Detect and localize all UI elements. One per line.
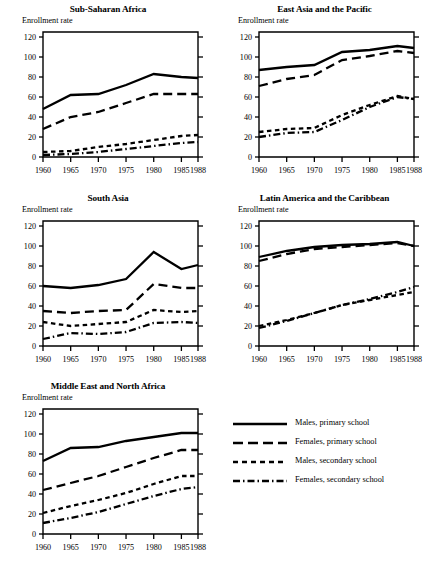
y-tick-label: 100 [24,430,36,439]
x-tick-label: 1980 [146,355,162,364]
data-series-line [43,94,198,129]
legend-item-females-primary: Females, primary school [232,435,377,447]
y-tick-label: 0 [32,342,36,351]
data-series-line [43,142,198,155]
y-tick-label: 80 [244,73,252,82]
x-tick-label: 1988 [406,166,422,175]
data-series-line [259,96,414,132]
y-tick-label: 20 [244,322,252,331]
x-tick-label: 1965 [63,355,79,364]
y-tick-label: 60 [28,470,36,479]
x-tick-label: 1980 [146,543,162,552]
panel-sub-saharan-africa: Sub-Saharan Africa Enrollment rate 02040… [0,0,216,190]
y-tick-label: 20 [28,322,36,331]
y-tick-label: 100 [240,242,252,251]
data-series-line [43,450,198,490]
legend-item-males-secondary: Males, secondary school [232,454,377,466]
y-tick-label: 20 [28,510,36,519]
x-tick-label: 1988 [190,543,206,552]
x-tick-label: 1970 [90,355,106,364]
legend-key-solid-icon [232,416,288,428]
y-tick-label: 20 [28,133,36,142]
y-tick-label: 100 [24,242,36,251]
data-series-line [43,476,198,513]
x-tick-label: 1980 [362,355,378,364]
legend-label: Males, secondary school [295,456,377,465]
x-tick-label: 1980 [362,166,378,175]
panel-south-asia: South Asia Enrollment rate 0204060801001… [0,189,216,377]
y-tick-label: 100 [240,53,252,62]
panel-east-asia-and-the-pacific: East Asia and the Pacific Enrollment rat… [216,0,433,190]
x-tick-label: 1965 [279,355,295,364]
legend-label: Females, primary school [295,437,377,446]
x-tick-label: 1985 [173,543,189,552]
y-tick-label: 120 [24,222,36,231]
y-tick-label: 40 [28,113,36,122]
x-tick-label: 1975 [334,166,350,175]
x-tick-label: 1965 [63,543,79,552]
x-tick-label: 1970 [90,543,106,552]
legend-key-dashed-icon [232,435,288,447]
x-tick-label: 1975 [118,543,134,552]
y-tick-label: 0 [32,153,36,162]
data-series-line [43,310,198,326]
y-tick-label: 40 [28,490,36,499]
legend-label: Females, secondary school [295,475,384,484]
y-tick-label: 20 [244,133,252,142]
panel-middle-east-and-north-africa: Middle East and North Africa Enrollment … [0,377,216,566]
chart-legend: Males, primary school Females, primary s… [232,410,432,490]
x-tick-label: 1975 [334,355,350,364]
x-tick-label: 1960 [251,355,267,364]
x-tick-label: 1980 [146,166,162,175]
data-series-line [43,252,198,288]
x-tick-label: 1985 [173,355,189,364]
data-series-line [43,487,198,523]
y-tick-label: 120 [240,222,252,231]
y-tick-label: 60 [244,93,252,102]
data-series-line [259,287,414,328]
legend-item-females-secondary: Females, secondary school [232,473,384,485]
x-tick-label: 1988 [190,166,206,175]
y-tick-label: 120 [24,33,36,42]
y-tick-label: 0 [248,342,252,351]
y-tick-label: 80 [28,73,36,82]
data-series-line [43,74,198,109]
y-tick-label: 60 [28,282,36,291]
x-tick-label: 1970 [90,166,106,175]
x-tick-label: 1965 [63,166,79,175]
x-tick-label: 1965 [279,166,295,175]
x-tick-label: 1985 [389,166,405,175]
y-tick-label: 80 [28,262,36,271]
x-tick-label: 1988 [406,355,422,364]
y-tick-label: 100 [24,53,36,62]
x-tick-label: 1970 [306,166,322,175]
plot-svg: 0204060801001201960196519701975198019851… [216,189,432,379]
data-series-line [259,292,414,326]
plot-svg: 0204060801001201960196519701975198019851… [216,0,432,190]
y-tick-label: 40 [244,113,252,122]
x-tick-label: 1960 [35,355,51,364]
y-tick-label: 60 [244,282,252,291]
x-tick-label: 1985 [389,355,405,364]
y-tick-label: 120 [240,33,252,42]
x-tick-label: 1985 [173,166,189,175]
y-tick-label: 60 [28,93,36,102]
y-tick-label: 80 [28,450,36,459]
x-tick-label: 1960 [251,166,267,175]
y-tick-label: 80 [244,262,252,271]
y-tick-label: 40 [28,302,36,311]
plot-svg: 0204060801001201960196519701975198019851… [0,0,216,190]
data-series-line [259,46,414,70]
x-tick-label: 1975 [118,355,134,364]
legend-label: Males, primary school [295,418,369,427]
y-tick-label: 0 [32,530,36,539]
y-tick-label: 120 [24,410,36,419]
legend-key-dashdot-icon [232,473,288,485]
y-tick-label: 40 [244,302,252,311]
x-tick-label: 1960 [35,166,51,175]
x-tick-label: 1988 [190,355,206,364]
x-tick-label: 1975 [118,166,134,175]
data-series-line [43,322,198,339]
legend-item-males-primary: Males, primary school [232,416,369,428]
x-tick-label: 1960 [35,543,51,552]
